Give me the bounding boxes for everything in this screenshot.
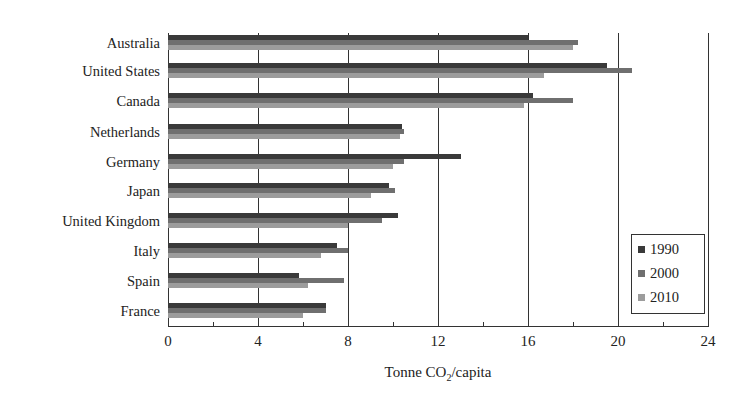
minor-tick — [663, 322, 664, 327]
gridline — [618, 33, 619, 327]
bar-2010 — [168, 283, 308, 288]
co2-per-capita-chart: AustraliaUnited StatesCanadaNetherlandsG… — [0, 0, 754, 404]
y-axis-label: Australia — [107, 35, 160, 51]
legend-swatch-icon — [638, 246, 645, 253]
bar-2010 — [168, 223, 348, 228]
y-axis-label: United Kingdom — [62, 213, 160, 229]
y-axis-label: United States — [82, 63, 160, 79]
x-tick-label: 4 — [254, 333, 262, 350]
bar-2010 — [168, 164, 393, 169]
minor-tick — [483, 322, 484, 327]
x-tick-label: 16 — [521, 333, 536, 350]
x-tick-label: 8 — [344, 333, 352, 350]
gridline — [708, 33, 709, 327]
bar-2010 — [168, 193, 371, 198]
legend-item-1990: 1990 — [638, 241, 679, 258]
y-axis-label: Germany — [106, 154, 160, 170]
legend-item-2000: 2000 — [638, 265, 679, 282]
bar-2010 — [168, 45, 573, 50]
legend: 1990 2000 2010 — [631, 234, 705, 314]
minor-tick — [573, 322, 574, 327]
legend-swatch-icon — [638, 270, 645, 277]
x-axis-title-main: Tonne CO — [385, 364, 447, 380]
minor-tick — [213, 322, 214, 327]
y-axis-label: Italy — [133, 243, 160, 259]
legend-swatch-icon — [638, 294, 645, 301]
x-tick-label: 12 — [431, 333, 446, 350]
bar-2010 — [168, 253, 321, 258]
y-axis-label: Netherlands — [90, 124, 160, 140]
bar-2010 — [168, 103, 524, 108]
x-tick-label: 20 — [611, 333, 626, 350]
y-axis-label: Canada — [117, 93, 160, 109]
x-tick-label: 24 — [701, 333, 716, 350]
y-axis-label: Japan — [127, 183, 160, 199]
legend-label: 2000 — [650, 265, 679, 282]
bar-2010 — [168, 313, 303, 318]
legend-label: 2010 — [650, 289, 679, 306]
minor-tick — [393, 322, 394, 327]
y-axis-label: Spain — [127, 273, 160, 289]
x-tick-label: 0 — [164, 333, 172, 350]
legend-label: 1990 — [650, 241, 679, 258]
bar-2010 — [168, 73, 544, 78]
bar-2010 — [168, 134, 400, 139]
legend-item-2010: 2010 — [638, 289, 679, 306]
x-axis-title: Tonne CO2/capita — [385, 364, 492, 383]
x-axis-title-tail: /capita — [451, 364, 491, 380]
y-axis-label: France — [121, 303, 160, 319]
minor-tick — [303, 322, 304, 327]
x-axis-line — [168, 326, 708, 327]
